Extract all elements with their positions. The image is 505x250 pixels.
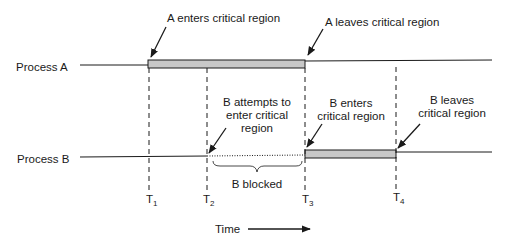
- t3-label: T 3: [302, 193, 314, 208]
- b-blocked-brace: [213, 161, 302, 172]
- a-leaves-label: A leaves critical region: [325, 16, 439, 28]
- annotation-arrows: [151, 27, 420, 229]
- a-leaves-arrow: [308, 29, 323, 55]
- svg-text:B enters: B enters: [330, 97, 373, 109]
- b-leaves-label: B leaves critical region: [418, 94, 486, 119]
- b-attempts-label: B attempts to enter critical region: [223, 96, 291, 134]
- process-a-critical-bar: [148, 60, 305, 68]
- process-b-critical-bar: [305, 150, 396, 158]
- svg-text:critical region: critical region: [317, 110, 385, 122]
- time-axis-label: Time: [215, 223, 240, 235]
- svg-text:3: 3: [309, 199, 314, 208]
- process-a-label: Process A: [16, 61, 68, 73]
- process-b-blocked-line: [207, 155, 305, 156]
- svg-text:B leaves: B leaves: [430, 94, 474, 106]
- t1-label: T 1: [146, 193, 158, 208]
- svg-text:4: 4: [400, 197, 405, 206]
- t4-label: T 4: [393, 191, 405, 206]
- t2-label: T 2: [203, 193, 215, 208]
- b-blocked-label: B blocked: [232, 178, 283, 190]
- svg-text:T: T: [393, 191, 400, 203]
- b-enters-label: B enters critical region: [317, 97, 385, 122]
- svg-text:T: T: [302, 193, 309, 205]
- svg-text:critical region: critical region: [418, 107, 486, 119]
- b-leaves-arrow: [398, 124, 420, 148]
- a-enters-arrow: [151, 27, 166, 57]
- b-attempts-arrow: [209, 128, 226, 153]
- svg-text:region: region: [241, 122, 273, 134]
- svg-text:T: T: [203, 193, 210, 205]
- a-enters-label: A enters critical region: [167, 12, 280, 24]
- b-enters-arrow: [307, 124, 322, 147]
- svg-text:enter critical: enter critical: [226, 109, 288, 121]
- svg-text:T: T: [146, 193, 153, 205]
- svg-text:1: 1: [153, 199, 158, 208]
- process-b-timeline: [80, 150, 492, 158]
- process-a-timeline: [80, 60, 492, 68]
- svg-text:2: 2: [210, 199, 215, 208]
- mutual-exclusion-diagram: Process A Process B A enters critical re…: [0, 0, 505, 250]
- process-b-label: Process B: [17, 153, 70, 165]
- svg-text:B attempts to: B attempts to: [223, 96, 291, 108]
